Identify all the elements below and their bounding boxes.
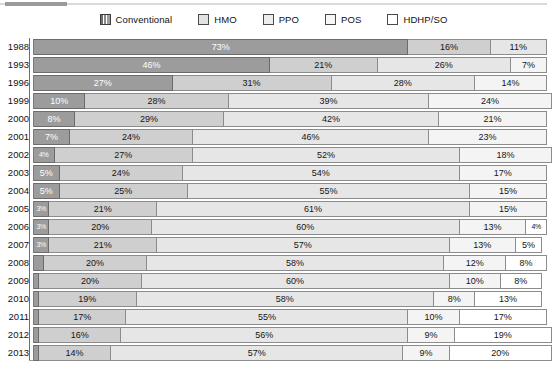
bar-segment-pos[interactable]: 13% <box>460 219 527 235</box>
segment-value-label: 17% <box>494 312 512 322</box>
swatch-ppo-icon <box>263 14 274 25</box>
bar-segment-ppo[interactable]: 56% <box>121 327 408 343</box>
stacked-bar: 5%25%55%15% <box>33 183 547 199</box>
legend-item-hmo[interactable]: HMO <box>198 14 236 25</box>
legend-item-pos[interactable]: POS <box>325 14 361 25</box>
bar-segment-hmo[interactable]: 29% <box>75 111 224 127</box>
bar-segment-hmo[interactable]: 25% <box>60 183 188 199</box>
bar-segment-hmo[interactable]: 16% <box>39 327 121 343</box>
bar-segment-hdhp[interactable]: 19% <box>455 327 552 343</box>
bar-segment-hdhp[interactable]: 4% <box>526 219 547 235</box>
segment-value-label: 10% <box>425 312 443 322</box>
bar-segment-pos[interactable]: 12% <box>444 255 506 271</box>
stacked-bar: 1%17%55%10%17% <box>33 309 547 325</box>
segment-value-label: 20% <box>81 276 99 286</box>
legend-item-ppo[interactable]: PPO <box>263 14 299 25</box>
bar-segment-ppo[interactable]: 57% <box>157 237 449 253</box>
bar-segment-hmo[interactable]: 24% <box>60 165 183 181</box>
bar-segment-conventional[interactable]: 5% <box>34 183 60 199</box>
bar-segment-pos[interactable]: 8% <box>434 291 475 307</box>
bar-segment-hmo[interactable]: 20% <box>44 255 147 271</box>
bar-segment-hdhp[interactable]: 5% <box>516 237 542 253</box>
bar-segment-pos[interactable]: 24% <box>429 93 552 109</box>
segment-value-label: 46% <box>142 60 160 70</box>
bar-segment-hdhp[interactable]: 17% <box>460 309 547 325</box>
y-axis-line <box>29 38 30 361</box>
bar-segment-conventional[interactable]: 46% <box>34 57 270 73</box>
bar-segment-ppo[interactable]: 55% <box>126 309 408 325</box>
bar-segment-hdhp[interactable]: 20% <box>450 345 552 361</box>
segment-value-label: 3% <box>37 205 46 212</box>
bar-segment-ppo[interactable]: 46% <box>193 129 429 145</box>
bar-segment-conventional[interactable]: 3% <box>34 201 49 217</box>
bar-segment-hmo[interactable]: 27% <box>55 147 194 163</box>
bar-segment-pos[interactable]: 18% <box>460 147 552 163</box>
bar-segment-hdhp[interactable]: 8% <box>506 255 547 271</box>
segment-value-label: 57% <box>294 240 312 250</box>
bar-segment-conventional[interactable]: 3% <box>34 237 49 253</box>
segment-value-label: 60% <box>296 222 314 232</box>
bar-segment-ppo[interactable]: 39% <box>229 93 429 109</box>
bar-segment-conventional[interactable]: 2% <box>34 255 44 271</box>
bar-segment-hmo[interactable]: 21% <box>49 201 157 217</box>
bar-segment-hmo[interactable]: 28% <box>85 93 229 109</box>
chart-row: 198873%16%11% <box>0 38 547 55</box>
bar-segment-ppo[interactable]: 60% <box>142 273 450 289</box>
stacked-bar: 1%16%56%9%19% <box>33 327 547 343</box>
bar-segment-hmo[interactable]: 16% <box>408 39 490 55</box>
chart-row: 20053%21%61%15% <box>0 200 547 217</box>
bar-segment-conventional[interactable]: 5% <box>34 165 60 181</box>
bar-segment-hmo[interactable]: 19% <box>39 291 136 307</box>
bar-segment-conventional[interactable]: 73% <box>34 39 408 55</box>
bar-segment-conventional[interactable]: 10% <box>34 93 85 109</box>
bar-segment-hmo[interactable]: 20% <box>39 273 142 289</box>
swatch-hdhp-icon <box>387 14 398 25</box>
bar-segment-ppo[interactable]: 57% <box>111 345 403 361</box>
bar-segment-hdhp[interactable]: 8% <box>501 273 542 289</box>
bar-segment-pos[interactable]: 15% <box>470 183 547 199</box>
bar-segment-ppo[interactable]: 58% <box>147 255 445 271</box>
legend-item-hdhp-so[interactable]: HDHP/SO <box>387 14 447 25</box>
bar-segment-pos[interactable]: 23% <box>429 129 547 145</box>
bar-segment-hmo[interactable]: 24% <box>70 129 193 145</box>
bar-segment-pos[interactable]: 10% <box>450 273 501 289</box>
chart-row: 199346%21%26%7% <box>0 56 547 73</box>
bar-segment-conventional[interactable]: 8% <box>34 111 75 127</box>
bar-segment-pos[interactable]: 10% <box>408 309 459 325</box>
chart-row: 20131%14%57%9%20% <box>0 344 547 361</box>
bar-segment-pos[interactable]: 21% <box>439 111 547 127</box>
bar-segment-ppo[interactable]: 11% <box>491 39 547 55</box>
bar-segment-ppo[interactable]: 60% <box>152 219 460 235</box>
bar-segment-ppo[interactable]: 26% <box>378 57 511 73</box>
bar-segment-pos[interactable]: 14% <box>475 75 547 91</box>
bar-segment-ppo[interactable]: 52% <box>193 147 460 163</box>
legend-item-conventional[interactable]: Conventional <box>100 14 173 25</box>
bar-segment-hmo[interactable]: 31% <box>173 75 332 91</box>
bar-segment-pos[interactable]: 9% <box>408 327 454 343</box>
bar-segment-pos[interactable]: 7% <box>511 57 547 73</box>
bar-segment-pos[interactable]: 13% <box>450 237 517 253</box>
bar-segment-ppo[interactable]: 28% <box>332 75 476 91</box>
bar-segment-hmo[interactable]: 21% <box>49 237 157 253</box>
bar-segment-conventional[interactable]: 7% <box>34 129 70 145</box>
bar-segment-ppo[interactable]: 55% <box>188 183 470 199</box>
bar-segment-hdhp[interactable]: 13% <box>475 291 542 307</box>
bar-segment-pos[interactable]: 15% <box>470 201 547 217</box>
segment-value-label: 19% <box>78 294 96 304</box>
bar-segment-hmo[interactable]: 14% <box>39 345 111 361</box>
bar-segment-conventional[interactable]: 3% <box>34 219 49 235</box>
bar-segment-hmo[interactable]: 17% <box>39 309 126 325</box>
bar-segment-conventional[interactable]: 27% <box>34 75 173 91</box>
segment-value-label: 21% <box>94 240 112 250</box>
bar-segment-ppo[interactable]: 42% <box>224 111 439 127</box>
bar-segment-ppo[interactable]: 58% <box>137 291 435 307</box>
bar-segment-ppo[interactable]: 61% <box>157 201 470 217</box>
bar-segment-ppo[interactable]: 54% <box>183 165 460 181</box>
bar-segment-hmo[interactable]: 20% <box>49 219 152 235</box>
bar-segment-pos[interactable]: 17% <box>460 165 547 181</box>
bar-segment-conventional[interactable]: 4% <box>34 147 55 163</box>
bar-segment-hmo[interactable]: 21% <box>270 57 378 73</box>
bar-segment-pos[interactable]: 9% <box>403 345 449 361</box>
segment-value-label: 16% <box>71 330 89 340</box>
